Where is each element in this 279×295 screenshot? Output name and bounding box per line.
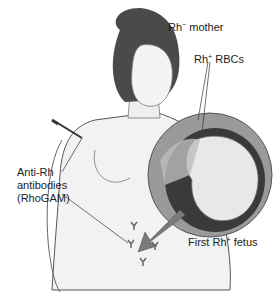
label-rh-positive-rbcs: Rh+ RBCs — [194, 53, 244, 66]
illustration — [0, 0, 279, 295]
label-rh-negative-mother: Rh− mother — [168, 21, 223, 34]
label-first-rh-positive-fetus: First Rh+ fetus — [188, 236, 258, 249]
face — [132, 45, 173, 107]
label-anti-rh-antibodies: Anti-Rh antibodies (RhoGAM) — [17, 166, 70, 205]
